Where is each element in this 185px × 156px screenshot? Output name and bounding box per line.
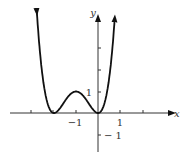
x-tick-label-neg1: −1 (68, 117, 83, 128)
y-axis-label: y (89, 7, 96, 18)
y-tick-label-1: 1 (86, 87, 92, 98)
function-graph: y x −1 1 1 − 1 (0, 0, 185, 156)
x-tick-label-1: 1 (117, 117, 123, 128)
x-axis-label: x (174, 108, 180, 119)
curve (37, 12, 115, 113)
y-tick-label-neg1: − 1 (104, 130, 122, 141)
